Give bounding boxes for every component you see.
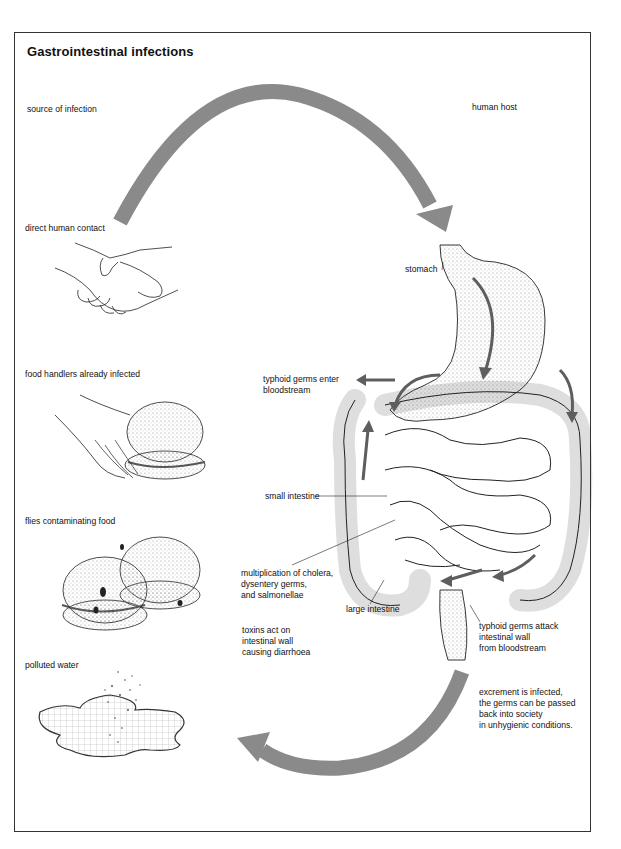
- stomach-label: stomach: [405, 264, 437, 275]
- excrement-line-3: back into society: [479, 709, 576, 720]
- typhoid-attack-label: typhoid germs attack intestinal wall fro…: [479, 621, 558, 654]
- to-host-arrow: [120, 91, 453, 232]
- toxins-line-1: toxins act on: [242, 625, 310, 636]
- small-intestine-label: small intestine: [265, 491, 319, 502]
- large-intestine-illustration: [344, 392, 582, 660]
- flies-on-burgers-icon: [62, 537, 200, 630]
- typhoid-attack-line-1: typhoid germs attack: [479, 621, 558, 632]
- handshake-icon: [55, 243, 178, 314]
- polluted-water-puddle-icon: [39, 671, 184, 756]
- excrement-line-1: excrement is infected,: [479, 687, 576, 698]
- toxins-line-2: intestinal wall: [242, 636, 310, 647]
- large-intestine-label: large intestine: [346, 604, 400, 615]
- toxins-label: toxins act on intestinal wall causing di…: [242, 625, 310, 658]
- source-of-infection-heading: source of infection: [27, 104, 97, 115]
- source-label-food-handlers: food handlers already infected: [25, 369, 140, 380]
- multiplication-line-2: dysentery germs,: [241, 579, 333, 590]
- multiplication-line-1: multiplication of cholera,: [241, 568, 333, 579]
- source-label-direct-contact: direct human contact: [25, 223, 105, 234]
- human-host-heading: human host: [472, 102, 517, 113]
- excrement-line-2: the germs can be passed: [479, 698, 576, 709]
- hand-holding-burger-icon: [55, 395, 205, 479]
- typhoid-enter-line-2: bloodstream: [263, 385, 339, 396]
- multiplication-line-3: and salmonellae: [241, 590, 333, 601]
- source-label-polluted-water: polluted water: [25, 660, 79, 671]
- typhoid-enter-label: typhoid germs enter bloodstream: [263, 374, 339, 396]
- multiplication-label: multiplication of cholera, dysentery ger…: [241, 568, 333, 601]
- typhoid-attack-line-2: intestinal wall: [479, 632, 558, 643]
- source-label-flies: flies contaminating food: [25, 516, 115, 527]
- typhoid-enter-line-1: typhoid germs enter: [263, 374, 339, 385]
- back-to-society-arrow: [237, 672, 462, 768]
- toxins-line-3: causing diarrhoea: [242, 647, 310, 658]
- typhoid-attack-line-3: from bloodstream: [479, 643, 558, 654]
- small-intestine-illustration: [385, 429, 551, 571]
- diagram-title: Gastrointestinal infections: [27, 44, 194, 59]
- excrement-label: excrement is infected, the germs can be …: [479, 687, 576, 731]
- excrement-line-4: in unhygienic conditions.: [479, 720, 576, 731]
